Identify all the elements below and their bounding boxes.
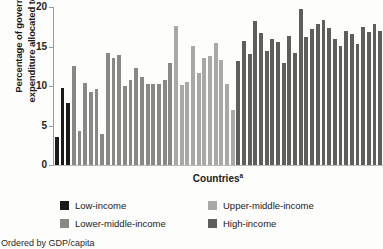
- legend-item[interactable]: Low-income: [60, 200, 126, 211]
- bar: [100, 134, 104, 165]
- bar: [344, 31, 348, 165]
- bar: [242, 41, 246, 165]
- bar: [106, 53, 110, 165]
- bar: [333, 39, 337, 165]
- bar: [293, 53, 297, 165]
- legend-swatch-icon: [60, 201, 69, 210]
- bar: [146, 84, 150, 165]
- bar: [219, 60, 223, 165]
- bar: [361, 27, 365, 165]
- chart-figure: Percentage of government expenditure all…: [0, 0, 383, 249]
- legend-label: Low-income: [75, 200, 126, 211]
- y-tick-label: 10: [29, 81, 47, 91]
- bar: [163, 80, 167, 165]
- bar: [287, 36, 291, 165]
- bar: [265, 51, 269, 165]
- bar: [140, 77, 144, 165]
- bar: [180, 85, 184, 165]
- legend-item[interactable]: Lower-middle-income: [60, 218, 166, 229]
- bar: [61, 88, 65, 165]
- bar: [367, 32, 371, 166]
- bar: [270, 39, 274, 165]
- legend-label: Upper-middle-income: [223, 200, 314, 211]
- y-tick-label: 0: [29, 160, 47, 170]
- y-tick-mark: [49, 126, 53, 127]
- bar: [214, 43, 218, 165]
- bar: [72, 66, 76, 165]
- bar: [378, 31, 382, 165]
- bar: [134, 68, 138, 165]
- y-axis-title-line1: Percentage of government: [13, 0, 26, 119]
- bar-series: [54, 7, 383, 165]
- bar: [373, 24, 377, 165]
- bar: [253, 21, 257, 165]
- bar: [151, 84, 155, 165]
- bar: [350, 34, 354, 165]
- bar: [322, 20, 326, 165]
- bar: [231, 110, 235, 165]
- legend-label: Lower-middle-income: [75, 218, 166, 229]
- x-axis-line: [53, 165, 383, 166]
- y-axis-title-line2: expenditure allocated to health: [26, 0, 39, 119]
- bar: [95, 89, 99, 165]
- bar: [55, 137, 59, 165]
- bar: [129, 80, 133, 165]
- bar: [236, 61, 240, 165]
- legend-swatch-icon: [208, 201, 217, 210]
- bar: [174, 26, 178, 165]
- legend-item[interactable]: High-income: [208, 218, 276, 229]
- bar: [339, 46, 343, 165]
- x-axis-title: Countriesa: [53, 172, 383, 184]
- y-tick-mark: [49, 47, 53, 48]
- bar: [356, 44, 360, 165]
- bar: [310, 29, 314, 165]
- x-axis-title-superscript: a: [240, 172, 244, 179]
- bar: [282, 63, 286, 165]
- y-tick-mark: [49, 165, 53, 166]
- x-axis-title-text: Countries: [193, 173, 240, 184]
- bar: [208, 56, 212, 165]
- bar: [83, 83, 87, 165]
- bar: [157, 84, 161, 165]
- legend-swatch-icon: [60, 219, 69, 228]
- legend-item[interactable]: Upper-middle-income: [208, 200, 314, 211]
- bar: [197, 73, 201, 165]
- bar: [117, 55, 121, 165]
- bar: [112, 58, 116, 165]
- bar: [299, 9, 303, 165]
- y-tick-label: 5: [29, 121, 47, 131]
- chart-legend: Low-incomeLower-middle-incomeUpper-middl…: [60, 200, 360, 236]
- plot-area: 05101520: [53, 7, 383, 165]
- legend-swatch-icon: [208, 219, 217, 228]
- bar: [168, 63, 172, 165]
- bar: [276, 42, 280, 165]
- y-tick-label: 20: [29, 2, 47, 12]
- bar: [78, 131, 82, 165]
- bar: [225, 84, 229, 165]
- y-axis-title: Percentage of government expenditure all…: [13, 0, 41, 119]
- bar: [316, 24, 320, 165]
- bar: [191, 46, 195, 165]
- bar: [259, 33, 263, 165]
- bar: [327, 28, 331, 165]
- y-tick-label: 15: [29, 42, 47, 52]
- footnote: Ordered by GDP/capita: [1, 238, 95, 248]
- legend-label: High-income: [223, 218, 276, 229]
- y-tick-mark: [49, 86, 53, 87]
- bar: [304, 37, 308, 165]
- bar: [66, 103, 70, 165]
- bar: [185, 82, 189, 165]
- bar: [248, 54, 252, 165]
- bar: [89, 92, 93, 165]
- bar: [123, 86, 127, 165]
- bar: [202, 58, 206, 165]
- y-tick-mark: [49, 7, 53, 8]
